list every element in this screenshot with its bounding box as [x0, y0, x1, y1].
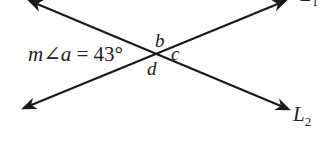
angle-label-b: b [155, 31, 165, 50]
angle-value: 43° [94, 42, 123, 66]
angle-name: m∠a [28, 42, 71, 66]
line-label-l2-subscript: 2 [305, 114, 312, 129]
angle-label-c: c [171, 44, 179, 63]
line-label-l2: L2 [293, 104, 311, 125]
line-label-l2-letter: L [293, 102, 305, 126]
angle-label-d: d [147, 59, 157, 78]
equals-sign: = [77, 42, 89, 66]
lines-svg [0, 0, 324, 146]
line-label-l1-subscript: 1 [312, 0, 319, 9]
diagram-canvas: m∠a = 43° b c d L2 L1 [0, 0, 324, 146]
line-label-l1: L1 [300, 0, 318, 5]
angle-measure-label: m∠a = 43° [28, 44, 123, 65]
line-label-l1-letter: L [300, 0, 312, 6]
